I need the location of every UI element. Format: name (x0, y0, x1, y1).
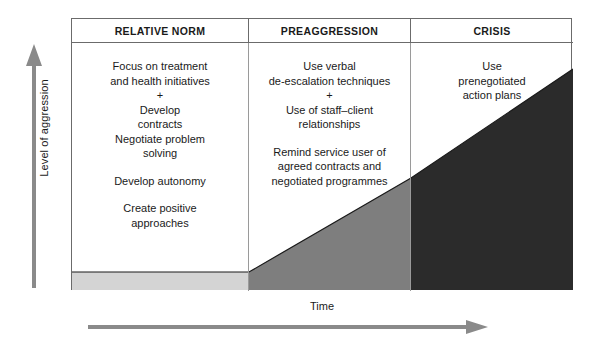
spacer (249, 132, 410, 145)
phase-text-block: Remind service user of agreed contracts … (249, 145, 410, 189)
spacer (72, 161, 248, 174)
phase-column-preaggression: Use verbal de-escalation techniques + Us… (249, 43, 411, 291)
phase-header-row: RELATIVE NORM PREAGGRESSION CRISIS (72, 19, 573, 43)
phase-header-crisis: CRISIS (411, 19, 573, 42)
phase-column-crisis: Use prenegotiated action plans (411, 43, 573, 291)
phase-header-preaggression: PREAGGRESSION (249, 19, 411, 42)
spacer (72, 188, 248, 201)
phase-text-block: Create positive approaches (72, 201, 248, 230)
diagram-canvas: Level of aggression RELATIVE NORM PREAGG… (0, 0, 590, 338)
x-axis-arrow-icon (88, 320, 488, 334)
phase-column-relative-norm: Focus on treatment and health initiative… (72, 43, 249, 291)
phase-text-block: Use prenegotiated action plans (411, 59, 573, 103)
chart-frame: RELATIVE NORM PREAGGRESSION CRISIS Focus… (71, 18, 572, 290)
phase-text-block: Focus on treatment and health initiative… (72, 59, 248, 161)
phase-text-block: Develop autonomy (72, 174, 248, 189)
x-axis-label: Time (71, 300, 573, 312)
phase-text-block: Use verbal de-escalation techniques + Us… (249, 59, 410, 132)
phase-header-relative-norm: RELATIVE NORM (72, 19, 249, 42)
y-axis-label: Level of aggression (38, 38, 50, 218)
phase-columns: Focus on treatment and health initiative… (72, 43, 573, 291)
